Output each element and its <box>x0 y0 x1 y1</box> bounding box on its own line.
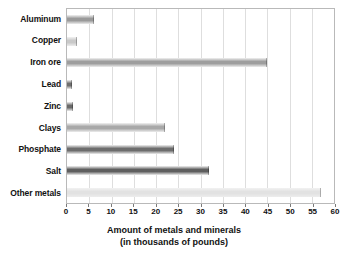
value-axis-ticks: 051015202530354045505560 <box>66 204 335 218</box>
tick-label: 10 <box>106 207 115 217</box>
bar-row <box>67 31 334 53</box>
category-label: Salt <box>0 160 64 182</box>
tick-label: 25 <box>174 207 183 217</box>
plot-area <box>66 8 335 204</box>
bar-row <box>67 160 334 182</box>
x-axis-title-line2: (in thousands of pounds) <box>0 236 348 248</box>
category-label: Lead <box>0 73 64 95</box>
bar-row <box>67 117 334 139</box>
bar-series <box>67 9 334 203</box>
tick-label: 0 <box>64 207 68 217</box>
category-label: Aluminum <box>0 8 64 30</box>
category-label: Phosphate <box>0 139 64 161</box>
tick-label: 40 <box>241 207 250 217</box>
bar-row <box>67 9 334 31</box>
tick-label: 30 <box>196 207 205 217</box>
bar-row <box>67 95 334 117</box>
tick-label: 50 <box>286 207 295 217</box>
bar <box>67 37 77 46</box>
bar <box>67 58 267 67</box>
tick-label: 60 <box>331 207 340 217</box>
x-axis-title-line1: Amount of metals and minerals <box>107 225 241 235</box>
tick-label: 35 <box>218 207 227 217</box>
bar <box>67 145 174 154</box>
tick-label: 45 <box>263 207 272 217</box>
bar <box>67 166 209 175</box>
category-label: Copper <box>0 30 64 52</box>
bar <box>67 15 94 24</box>
bar-chart: AluminumCopperIron oreLeadZincClaysPhosp… <box>0 0 348 256</box>
tick-label: 5 <box>86 207 90 217</box>
category-axis-labels: AluminumCopperIron oreLeadZincClaysPhosp… <box>0 8 64 204</box>
bar <box>67 102 73 111</box>
category-label: Zinc <box>0 95 64 117</box>
category-label: Other metals <box>0 182 64 204</box>
category-label: Clays <box>0 117 64 139</box>
tick-label: 15 <box>129 207 138 217</box>
x-axis-title: Amount of metals and minerals (in thousa… <box>0 224 348 248</box>
bar <box>67 123 165 132</box>
bar-row <box>67 52 334 74</box>
tick-label: 20 <box>151 207 160 217</box>
bar-row <box>67 74 334 96</box>
bar <box>67 188 321 197</box>
bar <box>67 80 72 89</box>
tick-label: 55 <box>308 207 317 217</box>
category-label: Iron ore <box>0 52 64 74</box>
bar-row <box>67 138 334 160</box>
bar-row <box>67 182 334 204</box>
